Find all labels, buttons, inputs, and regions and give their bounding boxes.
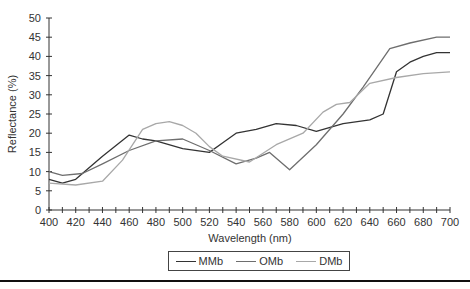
legend-label-dmb: DMb (319, 255, 342, 267)
y-tick-label: 15 (29, 146, 41, 158)
x-axis-title: Wavelength (nm) (208, 232, 291, 244)
legend: MMb OMb DMb (168, 251, 350, 271)
y-tick-label: 5 (35, 185, 41, 197)
x-tick-label: 560 (254, 216, 272, 228)
x-tick-label: 680 (414, 216, 432, 228)
x-tick-label: 440 (93, 216, 111, 228)
x-tick-label: 400 (40, 216, 58, 228)
x-tick-label: 580 (280, 216, 298, 228)
series-line-omb (49, 37, 450, 175)
x-tick-label: 660 (387, 216, 405, 228)
bottom-divider (0, 280, 470, 282)
legend-label-omb: OMb (259, 255, 283, 267)
series-layer (49, 37, 450, 185)
y-tick-label: 35 (29, 70, 41, 82)
x-tick-label: 540 (227, 216, 245, 228)
legend-swatch-dmb (296, 261, 316, 262)
series-line-mmb (49, 53, 450, 184)
y-axis: 05101520253035404550 (29, 12, 52, 216)
x-tick-label: 520 (200, 216, 218, 228)
y-tick-label: 30 (29, 89, 41, 101)
legend-item-dmb: DMb (296, 255, 342, 267)
y-tick-label: 45 (29, 31, 41, 43)
y-tick-label: 50 (29, 12, 41, 24)
x-tick-label: 500 (173, 216, 191, 228)
y-tick-label: 25 (29, 108, 41, 120)
reflectance-chart: 05101520253035404550 4004204404604805005… (0, 0, 470, 250)
x-tick-label: 640 (361, 216, 379, 228)
x-tick-label: 420 (67, 216, 85, 228)
legend-swatch-mmb (176, 261, 196, 262)
x-tick-label: 600 (307, 216, 325, 228)
series-line-dmb (49, 72, 450, 185)
legend-item-mmb: MMb (176, 255, 223, 267)
y-tick-label: 10 (29, 166, 41, 178)
legend-item-omb: OMb (236, 255, 283, 267)
legend-label-mmb: MMb (199, 255, 223, 267)
y-axis-title: Reflectance (%) (6, 75, 18, 153)
legend-swatch-omb (236, 261, 256, 262)
x-tick-label: 700 (441, 216, 459, 228)
x-tick-label: 460 (120, 216, 138, 228)
x-tick-label: 480 (147, 216, 165, 228)
y-tick-label: 20 (29, 127, 41, 139)
y-tick-label: 40 (29, 50, 41, 62)
x-tick-label: 620 (334, 216, 352, 228)
y-tick-label: 0 (35, 204, 41, 216)
x-axis: 4004204404604805005205405605806006206406… (40, 207, 459, 228)
